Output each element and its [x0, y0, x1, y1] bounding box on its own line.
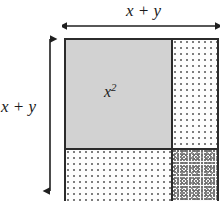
horizontal-dimension-arrow [62, 18, 220, 34]
left-dimension-label: x + y [1, 98, 36, 115]
top-dimension-label: x + y [0, 2, 219, 19]
x-squared-exponent: 2 [111, 81, 116, 93]
region-x-squared: x2 [66, 40, 173, 150]
vertical-dimension-arrow [42, 34, 58, 196]
region-xy-bottom-left [66, 150, 173, 201]
area-model-figure: x + y x + y x2 [0, 0, 221, 201]
outer-square: x2 [64, 38, 219, 201]
region-xy-top-right [173, 40, 217, 150]
region-y-squared [173, 150, 217, 201]
x-squared-area-label: x2 [104, 82, 117, 100]
